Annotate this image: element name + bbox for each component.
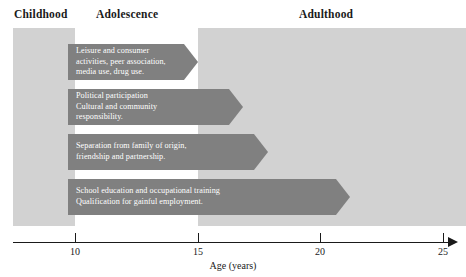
task-arrow-label: Political participation Cultural and com… xyxy=(76,91,157,123)
task-arrow-separation: Separation from family of origin, friend… xyxy=(68,134,268,170)
task-arrow-label: Leisure and consumer activities, peer as… xyxy=(76,46,166,78)
figure-canvas: Childhood Adolescence Adulthood Leisure … xyxy=(0,0,466,277)
axis-caption: Age (years) xyxy=(0,260,466,271)
axis-tick-20 xyxy=(320,233,321,243)
task-arrow-education: School education and occupational traini… xyxy=(68,179,350,215)
axis-tick-label-15: 15 xyxy=(193,246,203,257)
phase-label-childhood: Childhood xyxy=(14,8,68,20)
task-arrow-leisure: Leisure and consumer activities, peer as… xyxy=(68,44,198,80)
age-axis-line xyxy=(13,242,451,243)
axis-tick-label-20: 20 xyxy=(315,246,325,257)
phase-band-childhood xyxy=(13,28,75,226)
phase-label-adolescence: Adolescence xyxy=(96,8,158,20)
axis-tick-10 xyxy=(75,233,76,243)
phase-label-adulthood: Adulthood xyxy=(299,8,353,20)
task-arrow-label: School education and occupational traini… xyxy=(76,186,220,207)
age-axis-arrowhead-icon xyxy=(448,237,458,247)
axis-tick-25 xyxy=(443,233,444,243)
axis-tick-label-25: 25 xyxy=(438,246,448,257)
task-arrow-political: Political participation Cultural and com… xyxy=(68,89,243,125)
axis-tick-15 xyxy=(198,233,199,243)
axis-tick-label-10: 10 xyxy=(70,246,80,257)
task-arrow-label: Separation from family of origin, friend… xyxy=(76,141,187,162)
